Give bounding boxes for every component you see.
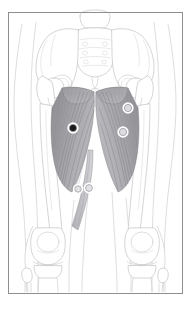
femoral-condyles-left <box>31 228 66 265</box>
marker-point-4[interactable] <box>85 184 94 193</box>
marker-point-5-dot[interactable] <box>75 186 81 192</box>
marker-point-2[interactable] <box>123 103 132 112</box>
marker-point-3-dot[interactable] <box>119 128 126 135</box>
femoral-condyles-right <box>125 228 160 265</box>
marker-point-1-dot[interactable] <box>69 124 76 131</box>
anatomy-illustration: Anterior pelvis and thigh anatomy with m… <box>0 0 191 309</box>
marker-point-1[interactable] <box>68 123 77 132</box>
fibula-head-left <box>22 268 33 283</box>
tibia-plateau-left <box>34 266 62 278</box>
marker-point-3[interactable] <box>118 127 127 136</box>
fibula-head-right <box>158 268 169 283</box>
tibia-plateau-right <box>128 266 156 278</box>
marker-point-4-dot[interactable] <box>86 185 93 192</box>
anatomy-figure-container: Anterior pelvis and thigh anatomy with m… <box>0 0 191 309</box>
sacrum <box>76 28 114 77</box>
marker-point-2-dot[interactable] <box>124 104 131 111</box>
marker-point-5[interactable] <box>74 185 82 193</box>
